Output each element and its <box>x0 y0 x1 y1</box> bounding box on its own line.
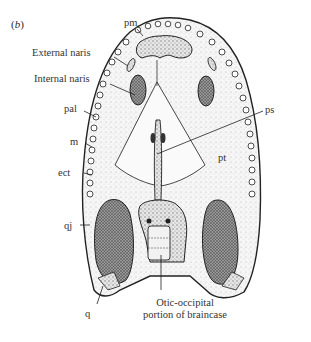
braincase-caption: Otic-occipital portion of braincase <box>130 297 240 321</box>
parasphenoid <box>154 120 161 200</box>
label-pm: pm <box>124 17 137 28</box>
label-q: q <box>85 308 90 319</box>
skull-diagram-figure: (b) pm External naris Internal naris pal… <box>0 0 311 342</box>
premaxilla-plate <box>136 36 192 58</box>
subtemporal-fenestra-left <box>95 200 134 284</box>
panel-label: (b) <box>11 18 24 30</box>
label-external-naris: External naris <box>32 47 91 58</box>
internal-naris-left <box>130 75 146 105</box>
label-qj: qj <box>64 220 72 231</box>
label-internal-naris: Internal naris <box>34 73 90 84</box>
internal-naris-right <box>198 76 214 106</box>
occipital-condyle <box>148 226 170 260</box>
label-ps: ps <box>265 104 274 115</box>
caption-line-2: portion of braincase <box>130 309 240 321</box>
caption-line-1: Otic-occipital <box>130 297 240 309</box>
label-pt: pt <box>218 152 226 163</box>
label-ect: ect <box>58 167 70 178</box>
label-m: m <box>70 136 78 147</box>
label-pal: pal <box>64 103 77 114</box>
